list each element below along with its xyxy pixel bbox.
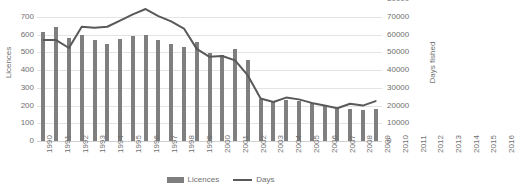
x-label-slot: 1998 — [179, 143, 197, 173]
x-axis-label: 1997 — [170, 135, 178, 153]
x-axis-label: 1998 — [188, 135, 196, 153]
legend-label-days: Days — [256, 176, 274, 184]
x-label-slot: 2001 — [233, 143, 251, 173]
y-axis-left-tick: 500 — [21, 48, 34, 56]
x-axis-label: 2013 — [455, 135, 463, 153]
line-series-days — [37, 17, 382, 141]
x-axis-label: 2010 — [402, 135, 410, 153]
x-label-slot: 2010 — [393, 143, 411, 173]
y-axis-left-tick: 300 — [21, 84, 34, 92]
x-axis-label: 2005 — [313, 135, 321, 153]
x-label-slot: 2011 — [411, 143, 428, 173]
x-axis-label: 2009 — [384, 135, 392, 153]
x-axis-label: 1999 — [206, 135, 214, 153]
x-label-slot: 2005 — [304, 143, 322, 173]
y-axis-left-tick: 100 — [21, 119, 34, 127]
x-axis-label: 2001 — [242, 135, 250, 153]
y-axis-right-tick: 60000 — [387, 31, 409, 39]
x-label-slot: 2008 — [357, 143, 375, 173]
x-label-slot: 2009 — [375, 143, 393, 173]
x-label-slot: 2013 — [446, 143, 464, 173]
x-axis-label: 2011 — [419, 135, 427, 152]
x-label-slot: 2004 — [286, 143, 304, 173]
y-axis-right-tick: 20000 — [387, 102, 409, 110]
x-label-slot: 1996 — [144, 143, 162, 173]
x-label-slot: 2014 — [464, 143, 482, 173]
y-axis-right-tick: 30000 — [387, 84, 409, 92]
y-axis-right-tick: 10000 — [387, 119, 409, 127]
x-axis-label: 2014 — [472, 135, 480, 153]
x-axis-label: 2015 — [490, 135, 498, 153]
x-axis-label: 1996 — [153, 135, 161, 153]
x-axis-label: 2016 — [508, 135, 516, 153]
x-label-slot: 2002 — [251, 143, 269, 173]
bar-swatch-icon — [167, 177, 184, 183]
chart-legend: Licences Days — [0, 176, 441, 184]
x-axis-label: 2007 — [348, 135, 356, 153]
x-axis-label: 2000 — [224, 135, 232, 153]
x-axis-label: 1993 — [99, 135, 107, 153]
plot-area — [37, 17, 382, 141]
x-label-slot: 2000 — [215, 143, 233, 173]
x-axis-label: 1990 — [46, 135, 54, 153]
days-line-path — [43, 9, 375, 108]
x-axis-label: 2004 — [295, 135, 303, 153]
x-axis-label: 1992 — [81, 135, 89, 153]
x-axis-label: 1994 — [117, 135, 125, 153]
legend-item-days: Days — [233, 176, 274, 184]
y-axis-right-tick: 40000 — [387, 66, 409, 74]
x-label-slot: 1994 — [108, 143, 126, 173]
y-axis-left-tick: 200 — [21, 102, 34, 110]
y-axis-left-tick: 0 — [30, 137, 34, 145]
x-label-slot: 2016 — [499, 143, 517, 173]
x-label-slot: 2007 — [340, 143, 358, 173]
x-axis-labels: 1990199119921993199419951996199719981999… — [37, 143, 382, 173]
y-axis-left-ticks: 0100200300400500600700 — [8, 0, 34, 192]
legend-item-licences: Licences — [167, 176, 220, 184]
line-swatch-icon — [233, 179, 252, 181]
x-label-slot: 2003 — [268, 143, 286, 173]
x-label-slot: 1990 — [37, 143, 55, 173]
x-axis-label: 2008 — [366, 135, 374, 153]
x-axis-label: 1991 — [64, 135, 72, 153]
x-axis-label: 1995 — [135, 135, 143, 153]
y-axis-right-tick: 70000 — [387, 13, 409, 21]
x-label-slot: 2006 — [322, 143, 340, 173]
x-label-slot: 2012 — [428, 143, 446, 173]
x-label-slot: 1997 — [162, 143, 180, 173]
y-axis-right-tick: 50000 — [387, 48, 409, 56]
x-label-slot: 1991 — [55, 143, 73, 173]
y-axis-left-tick: 700 — [21, 13, 34, 21]
x-label-slot: 1992 — [73, 143, 91, 173]
x-axis-label: 2006 — [331, 135, 339, 153]
x-label-slot: 1993 — [90, 143, 108, 173]
y-axis-left-tick: 600 — [21, 31, 34, 39]
x-label-slot: 2015 — [481, 143, 499, 173]
x-axis-label: 2002 — [259, 135, 267, 153]
x-axis-label: 2003 — [277, 135, 285, 153]
x-label-slot: 1999 — [197, 143, 215, 173]
y-axis-right-title: Days fished — [428, 33, 437, 93]
y-axis-left-tick: 400 — [21, 66, 34, 74]
legend-label-licences: Licences — [188, 176, 220, 184]
y-axis-right-tick: 80000 — [387, 0, 409, 3]
x-axis-label: 2012 — [437, 135, 445, 153]
x-label-slot: 1995 — [126, 143, 144, 173]
